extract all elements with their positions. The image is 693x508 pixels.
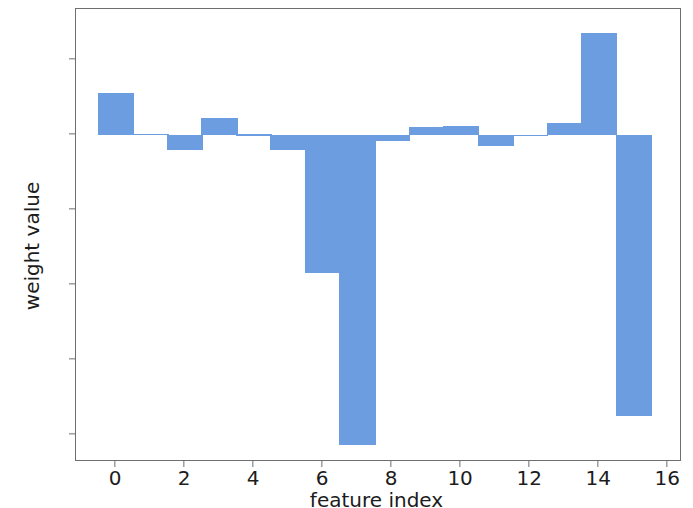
x-axis-label-text: feature index — [310, 488, 443, 508]
x-axis-label: feature index — [0, 488, 693, 508]
y-tick-mark — [69, 208, 75, 209]
x-tick-label: 6 — [316, 466, 329, 490]
bar — [201, 118, 237, 135]
chart-axes-frame — [75, 8, 681, 461]
x-tick-label: 12 — [516, 466, 541, 490]
bar — [616, 135, 652, 416]
bar — [98, 93, 134, 134]
y-tick-mark — [69, 358, 75, 359]
x-tick-label: 16 — [654, 466, 679, 490]
bar — [270, 135, 306, 150]
y-tick-mark — [69, 283, 75, 284]
bar — [581, 33, 617, 134]
y-tick-mark — [69, 433, 75, 434]
x-tick-label: 2 — [178, 466, 191, 490]
bar — [236, 134, 272, 136]
bar — [512, 135, 548, 137]
x-tick-label: 4 — [247, 466, 260, 490]
bar — [547, 123, 583, 134]
bar — [167, 135, 203, 150]
bar — [443, 126, 479, 134]
figure-canvas: 20−2−4−6−8 0246810121416 weight value fe… — [0, 0, 693, 508]
bar — [409, 127, 445, 135]
y-tick-mark — [69, 133, 75, 134]
bar — [478, 135, 514, 146]
bar — [132, 134, 168, 136]
x-tick-label: 8 — [385, 466, 398, 490]
bar — [305, 135, 341, 273]
bar — [339, 135, 375, 445]
bar — [374, 135, 410, 142]
x-tick-label: 10 — [447, 466, 472, 490]
y-tick-mark — [69, 58, 75, 59]
x-tick-label: 14 — [585, 466, 610, 490]
x-tick-label: 0 — [109, 466, 122, 490]
bar-plot-area — [76, 9, 680, 460]
y-axis-label: weight value — [20, 126, 44, 366]
